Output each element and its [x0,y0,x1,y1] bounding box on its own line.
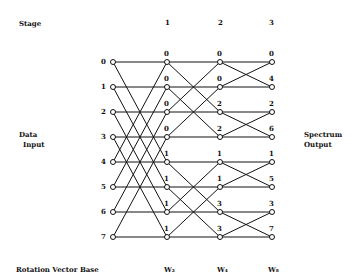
node-circle [111,60,116,65]
node-circle [165,160,170,165]
node-circle [111,160,116,165]
stage2-weight-label: 2 [217,99,222,108]
node-circle [218,160,223,165]
rotation-base-w2: W₂ [164,265,175,274]
stage-3-label: 3 [269,18,274,27]
stage2-weight-label: 1 [217,174,222,183]
stage1-weight-label: 0 [164,124,169,133]
stage2-weight-label: 0 [217,49,222,58]
node-circle [218,85,223,90]
stage1-weight-label: 1 [164,199,169,208]
stage2-weight-label: 3 [217,224,222,233]
node-circle [165,60,170,65]
spectrum-output-label-2: Output [304,140,332,149]
input-index-label: 4 [101,157,106,166]
data-input-label-1: Data [19,130,37,139]
input-index-label: 6 [101,207,106,216]
stage-2-label: 2 [218,18,223,27]
node-circle [270,185,275,190]
node-circle [111,210,116,215]
output-index-label: 6 [269,124,274,133]
node-circle [218,235,223,240]
stage2-weight-label: 3 [217,199,222,208]
data-input-label-2: Input [23,140,45,149]
output-index-label: 7 [269,224,274,233]
node-circle [270,135,275,140]
rotation-base-w8: W₈ [268,265,279,274]
stage1-weight-label: 0 [164,99,169,108]
node-circle [111,110,116,115]
node-circle [111,235,116,240]
input-index-label: 1 [101,82,106,91]
stage-1-label: 1 [165,18,170,27]
stage2-weight-label: 2 [217,124,222,133]
node-circle [165,110,170,115]
output-index-label: 5 [269,174,274,183]
input-index-label: 0 [101,57,106,66]
node-circle [218,185,223,190]
spectrum-output-label-1: Spectrum [304,130,342,139]
node-circle [270,85,275,90]
node-circle [218,210,223,215]
input-index-label: 3 [101,132,106,141]
node-circle [165,185,170,190]
input-index-label: 5 [101,182,106,191]
node-circle [165,135,170,140]
fft-butterfly-diagram: Stage 1 2 3 Data Input Spectrum Output R… [0,0,364,277]
input-index-label: 7 [101,232,106,241]
node-circle [111,185,116,190]
stage-label: Stage [19,19,41,28]
node-circle [165,85,170,90]
stage1-weight-label: 1 [164,149,169,158]
output-index-label: 0 [269,49,274,58]
output-index-label: 4 [269,74,274,83]
output-index-label: 3 [269,199,274,208]
stage2-weight-label: 1 [217,149,222,158]
input-index-label: 2 [101,107,106,116]
output-index-label: 2 [269,99,274,108]
node-circle [218,60,223,65]
stage2-weight-label: 0 [217,74,222,83]
node-circle [218,135,223,140]
node-circle [270,210,275,215]
stage1-weight-label: 0 [164,74,169,83]
node-circle [270,160,275,165]
node-circle [111,85,116,90]
rotation-vector-base-label: Rotation Vector Base [16,265,99,274]
stage1-weight-label: 1 [164,174,169,183]
stage1-weight-label: 0 [164,49,169,58]
node-circle [111,135,116,140]
node-circle [270,235,275,240]
node-circle [218,110,223,115]
node-circle [165,210,170,215]
rotation-base-w4: W₄ [217,265,228,274]
node-circle [270,60,275,65]
node-circle [270,110,275,115]
output-index-label: 1 [269,149,274,158]
stage1-weight-label: 1 [164,224,169,233]
node-circle [165,235,170,240]
